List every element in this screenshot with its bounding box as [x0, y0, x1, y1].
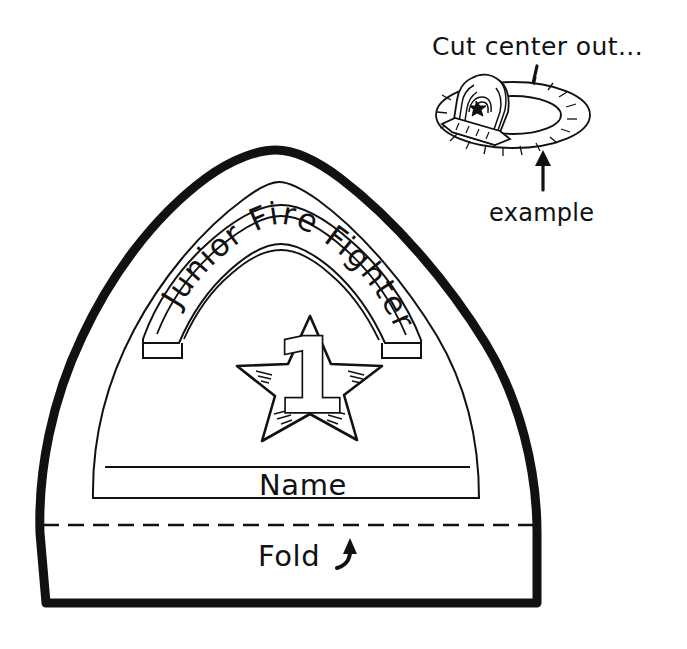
badge-template-artboard: Cut center out... [0, 0, 687, 649]
fold-label: Fold [258, 539, 320, 573]
cut-instruction-label: Cut center out... [432, 32, 643, 61]
name-label: Name [259, 468, 347, 502]
page-root: Cut center out... [0, 0, 687, 649]
example-label: example [489, 199, 594, 227]
star-number: 1 [274, 315, 346, 437]
